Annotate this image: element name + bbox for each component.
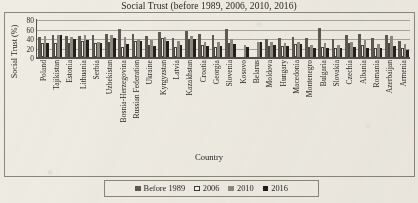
y-axis-tick-label: 0 — [8, 55, 34, 62]
bar-group — [144, 19, 157, 57]
bar-group — [317, 19, 330, 57]
x-axis-tick: Hungary — [277, 60, 290, 148]
x-axis-tick-label: Albania — [360, 60, 368, 84]
x-axis-tick: Montenegro — [304, 60, 317, 148]
x-axis-title: Country — [0, 152, 418, 162]
x-axis-tick-label: Hungary — [280, 60, 288, 87]
x-axis-tick: Ukraine — [144, 60, 157, 148]
bar-group — [330, 19, 343, 57]
legend-label: 2006 — [203, 184, 220, 193]
legend-item: Before 1989 — [135, 184, 185, 193]
x-axis-tick-label: Lithuania — [80, 60, 88, 89]
bar-group — [250, 19, 263, 57]
bar — [366, 48, 369, 58]
gridline — [36, 58, 410, 59]
x-axis-tick-label: Armenia — [400, 60, 408, 87]
x-axis-tick: Poland — [37, 60, 50, 148]
y-axis-tick-label: 20 — [8, 45, 34, 52]
x-axis-tick-label: Bosnia-Herzegovina — [120, 60, 128, 122]
x-axis-tick: Macedonia — [290, 60, 303, 148]
legend-label: 2016 — [271, 184, 288, 193]
bar — [380, 48, 383, 57]
y-axis-tick-label: 40 — [8, 36, 34, 43]
bar — [153, 46, 156, 57]
x-axis-tick-label: Slovenia — [226, 60, 234, 87]
bar — [326, 48, 329, 58]
x-axis-tick-label: Kosovo — [240, 60, 248, 84]
legend-label: Before 1989 — [144, 184, 186, 193]
x-axis-tick: Slovenia — [224, 60, 237, 148]
x-axis-tick: Estonia — [64, 60, 77, 148]
bar — [300, 44, 303, 57]
bar-group — [397, 19, 410, 57]
bar — [113, 38, 116, 57]
bar-group — [304, 19, 317, 57]
x-axis-tick: Kosovo — [237, 60, 250, 148]
x-axis-tick: Tajikistan — [50, 60, 63, 148]
legend-swatch — [135, 186, 141, 192]
x-axis-tick: Uzbekistan — [104, 60, 117, 148]
x-axis-tick-label: Macedonia — [293, 60, 301, 94]
bar — [340, 48, 343, 57]
bar — [46, 43, 49, 57]
x-axis-tick: Russian Federation — [130, 60, 143, 148]
x-axis-tick: Armenia — [397, 60, 410, 148]
x-axis-tick: Moldova — [264, 60, 277, 148]
bar — [86, 40, 89, 57]
bar-group — [370, 19, 383, 57]
bar — [313, 48, 316, 57]
bar — [60, 35, 63, 57]
x-axis-tick: Georgia — [210, 60, 223, 148]
x-axis-tick-label: Ukraine — [146, 60, 154, 84]
chart-figure: Social Trust (before 1989, 2006, 2010, 2… — [0, 0, 418, 203]
bar-group — [90, 19, 103, 57]
bar-group — [384, 19, 397, 57]
bar-group — [237, 19, 250, 57]
bar-group — [184, 19, 197, 57]
x-axis-line — [36, 57, 410, 58]
x-axis-tick-label: Estonia — [66, 60, 74, 83]
bar — [260, 42, 263, 57]
bar-group — [357, 19, 370, 57]
bar-group — [290, 19, 303, 57]
x-axis-tick: Slovakia — [330, 60, 343, 148]
legend-swatch — [194, 186, 200, 192]
bar-group — [130, 19, 143, 57]
x-axis-tick-labels: PolandTajikistanEstoniaLithuaniaSerbiaUz… — [37, 60, 410, 148]
legend-item: 2016 — [263, 184, 288, 193]
x-axis-tick-label: Czechia — [346, 60, 354, 84]
legend-swatch — [263, 186, 269, 192]
bar-group — [37, 19, 50, 57]
x-axis-tick-label: Croatia — [200, 60, 208, 82]
legend-item: 2010 — [228, 184, 253, 193]
bar — [406, 50, 409, 57]
x-axis-tick: Czechia — [344, 60, 357, 148]
x-axis-tick: Serbia — [90, 60, 103, 148]
bar-group — [157, 19, 170, 57]
bar — [73, 39, 76, 57]
bar — [286, 46, 289, 57]
x-axis-tick-label: Moldova — [266, 60, 274, 87]
bar — [353, 47, 356, 57]
x-axis-tick-label: Tajikistan — [53, 60, 61, 90]
y-axis-tick-label: 80 — [8, 17, 34, 24]
legend-item: 2006 — [194, 184, 219, 193]
x-axis-tick-label: Kyrgyzstan — [160, 60, 168, 95]
bar — [233, 44, 236, 57]
bar-group — [77, 19, 90, 57]
bar-group — [64, 19, 77, 57]
bar-group — [264, 19, 277, 57]
x-axis-tick-label: Montenegro — [306, 60, 314, 97]
y-axis-tick-label: 60 — [8, 26, 34, 33]
x-axis-tick: Kazakhstan — [184, 60, 197, 148]
x-axis-tick-label: Russian Federation — [133, 60, 141, 118]
x-axis-tick: Azerbaijan — [384, 60, 397, 148]
x-axis-tick-label: Serbia — [93, 60, 101, 79]
bar-group — [117, 19, 130, 57]
bar — [273, 45, 276, 57]
bar-group — [224, 19, 237, 57]
x-axis-tick: Romania — [370, 60, 383, 148]
x-axis-tick-label: Latvia — [173, 60, 181, 79]
x-axis-tick: Kyrgyzstan — [157, 60, 170, 148]
x-axis-tick-label: Poland — [40, 60, 48, 81]
